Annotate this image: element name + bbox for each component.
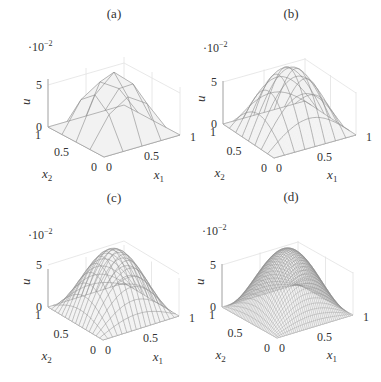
z-multiplier: ·10−2 xyxy=(202,223,227,238)
svg-text:5: 5 xyxy=(210,258,216,272)
figure-canvas: (a)05·10−200.5100.51ux2x1 (b)05·10−200.5… xyxy=(0,0,381,382)
svg-text:5: 5 xyxy=(36,258,42,272)
svg-text:1: 1 xyxy=(189,311,195,325)
svg-text:0.5: 0.5 xyxy=(54,145,69,159)
svg-text:0: 0 xyxy=(279,341,285,355)
svg-text:0.5: 0.5 xyxy=(317,150,332,164)
svg-text:5: 5 xyxy=(211,75,217,89)
z-multiplier: ·10−2 xyxy=(203,40,228,55)
svg-text:0: 0 xyxy=(90,343,96,357)
svg-text:0.5: 0.5 xyxy=(54,327,69,341)
x1-axis-label: x1 xyxy=(152,349,163,366)
x1-axis-label: x1 xyxy=(326,347,337,364)
svg-text:1: 1 xyxy=(35,308,41,322)
svg-text:1: 1 xyxy=(210,125,216,139)
x2-axis-label: x2 xyxy=(214,165,225,182)
panel-title: (c) xyxy=(107,190,121,205)
x2-axis-label: x2 xyxy=(41,166,52,183)
surface-mesh xyxy=(222,248,353,338)
panel-b: (b)05·10−200.5100.51ux2x1 xyxy=(193,6,372,184)
svg-text:1: 1 xyxy=(363,310,369,324)
svg-text:0.5: 0.5 xyxy=(317,330,332,344)
x1-axis-label: x1 xyxy=(153,167,164,184)
z-axis-label: u xyxy=(193,95,208,102)
svg-text:0.5: 0.5 xyxy=(144,149,159,163)
panel-title: (a) xyxy=(107,6,121,21)
z-axis-label: u xyxy=(192,278,207,285)
z-axis-label: u xyxy=(18,98,33,105)
svg-text:0: 0 xyxy=(91,160,97,174)
svg-text:0: 0 xyxy=(106,160,112,174)
panel-a: (a)05·10−200.5100.51ux2x1 xyxy=(18,6,196,184)
svg-text:0.5: 0.5 xyxy=(143,331,158,345)
z-multiplier: ·10−2 xyxy=(28,39,53,54)
panel-d: (d)05·10−200.5100.51ux2x1 xyxy=(192,189,369,364)
x2-axis-label: x2 xyxy=(41,348,52,365)
svg-text:0: 0 xyxy=(264,341,270,355)
svg-text:1: 1 xyxy=(35,128,41,142)
svg-text:0: 0 xyxy=(276,161,282,175)
x1-axis-label: x1 xyxy=(326,167,337,184)
x2-axis-label: x2 xyxy=(215,347,226,364)
svg-text:1: 1 xyxy=(366,130,372,144)
svg-text:0.5: 0.5 xyxy=(228,326,243,340)
panel-title: (d) xyxy=(283,189,298,204)
panel-title: (b) xyxy=(283,6,298,21)
figure: (a)05·10−200.5100.51ux2x1 (b)05·10−200.5… xyxy=(0,0,381,382)
panel-c: (c)05·10−200.5100.51ux2x1 xyxy=(18,190,195,366)
svg-text:1: 1 xyxy=(190,130,196,144)
svg-text:0: 0 xyxy=(261,161,267,175)
svg-text:5: 5 xyxy=(36,78,42,92)
z-axis-label: u xyxy=(18,278,33,285)
z-multiplier: ·10−2 xyxy=(28,227,53,242)
svg-text:0.5: 0.5 xyxy=(227,144,242,158)
svg-text:0: 0 xyxy=(105,343,111,357)
svg-text:1: 1 xyxy=(209,308,215,322)
